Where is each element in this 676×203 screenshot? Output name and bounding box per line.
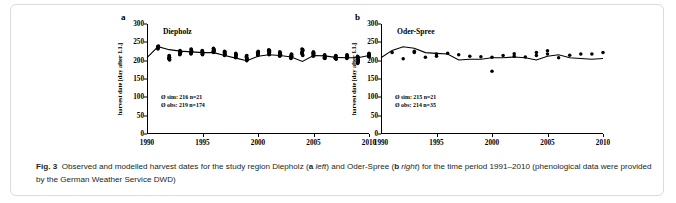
figure-label: Fig. 3	[36, 162, 57, 171]
caption-word-left: left	[315, 162, 326, 171]
observed-harvest-point	[223, 49, 227, 53]
observed-harvest-point	[457, 53, 461, 57]
x-tick-mark	[203, 134, 204, 137]
observed-harvest-point	[256, 49, 260, 53]
x-tick-mark	[603, 134, 604, 137]
y-tick-label: 150	[367, 75, 378, 83]
plot-area-diepholz: Diepholz Ø sim: 216 n=21 Ø obs: 219 n=17…	[147, 24, 369, 134]
y-tick-label: 150	[133, 75, 144, 83]
caption-part-2: ) and Oder-Spree (	[326, 162, 394, 171]
observed-harvest-point	[468, 55, 472, 59]
caption-word-right: right	[401, 162, 417, 171]
observed-harvest-point	[546, 52, 550, 56]
observed-harvest-point	[157, 44, 161, 48]
observed-harvest-point	[312, 50, 316, 54]
y-tick-label: 100	[133, 93, 144, 101]
y-tick-label: 50	[371, 112, 378, 120]
observed-harvest-point	[535, 54, 539, 58]
observed-harvest-point	[290, 52, 294, 56]
observed-harvest-point	[490, 56, 494, 60]
figure-container: a harvest date [day after 1.1.] Diepholz…	[10, 4, 664, 196]
observed-harvest-point	[512, 55, 516, 59]
x-tick-label: 2010	[596, 139, 610, 147]
observed-harvest-point	[234, 52, 238, 56]
observed-harvest-point	[557, 56, 561, 60]
x-tick-label: 2000	[251, 139, 265, 147]
observed-harvest-point	[546, 49, 550, 53]
x-tick-mark	[258, 134, 259, 137]
data-series-layer	[147, 24, 369, 134]
observed-harvest-point	[424, 56, 428, 60]
caption-part-1: Observed and modelled harvest dates for …	[62, 162, 309, 171]
observed-harvest-point	[189, 47, 193, 51]
x-tick-mark	[437, 134, 438, 137]
y-tick-label: 300	[133, 20, 144, 28]
x-tick-label: 1995	[429, 139, 443, 147]
y-tick-label: 50	[137, 112, 144, 120]
x-tick-label: 2000	[485, 139, 499, 147]
chart-panel-oder-spree: b harvest date [day after 1.1.] Oder-Spr…	[341, 13, 621, 153]
figure-caption: Fig. 3 Observed and modelled harvest dat…	[36, 160, 658, 186]
x-tick-mark	[492, 134, 493, 137]
observed-harvest-point	[323, 53, 327, 57]
y-tick-label: 250	[367, 38, 378, 46]
y-axis-title: harvest date [day after 1.1.]	[350, 17, 362, 141]
plot-area-oder-spree: Oder-Spree Ø sim: 215 n=21 Ø obs: 214 n=…	[381, 24, 603, 134]
x-tick-mark	[314, 134, 315, 137]
observed-harvest-point	[579, 52, 583, 56]
x-tick-label: 1990	[374, 139, 388, 147]
x-tick-label: 1995	[195, 139, 209, 147]
x-tick-mark	[548, 134, 549, 137]
observed-harvest-point	[300, 47, 304, 51]
y-tick-label: 250	[133, 38, 144, 46]
observed-harvest-point	[490, 70, 494, 74]
observed-harvest-point	[501, 54, 505, 58]
data-series-layer	[381, 24, 603, 134]
observed-harvest-point	[524, 55, 528, 59]
observed-harvest-point	[390, 51, 394, 55]
observed-harvest-point	[590, 52, 594, 56]
observed-harvest-point	[401, 57, 405, 61]
x-tick-label: 2005	[306, 139, 320, 147]
observed-harvest-point	[278, 50, 282, 54]
y-tick-label: 200	[367, 57, 378, 65]
x-tick-label: 1990	[140, 139, 154, 147]
observed-harvest-point	[334, 54, 338, 58]
observed-harvest-point	[568, 53, 572, 57]
observed-harvest-point	[413, 51, 417, 55]
observed-harvest-point	[435, 55, 439, 59]
y-tick-label: 200	[133, 57, 144, 65]
x-tick-label: 2005	[540, 139, 554, 147]
observed-harvest-point	[479, 55, 483, 59]
observed-harvest-point	[245, 54, 249, 58]
observed-harvest-point	[446, 52, 450, 56]
observed-harvest-point	[267, 48, 271, 52]
observed-harvest-point	[601, 51, 605, 55]
y-tick-label: 300	[367, 20, 378, 28]
observed-harvest-point	[178, 49, 182, 53]
y-tick-label: 100	[367, 93, 378, 101]
y-axis-title: harvest date [day after 1.1.]	[116, 17, 128, 141]
observed-harvest-point	[167, 54, 171, 58]
observed-harvest-point	[201, 49, 205, 53]
observed-harvest-point	[212, 46, 216, 50]
